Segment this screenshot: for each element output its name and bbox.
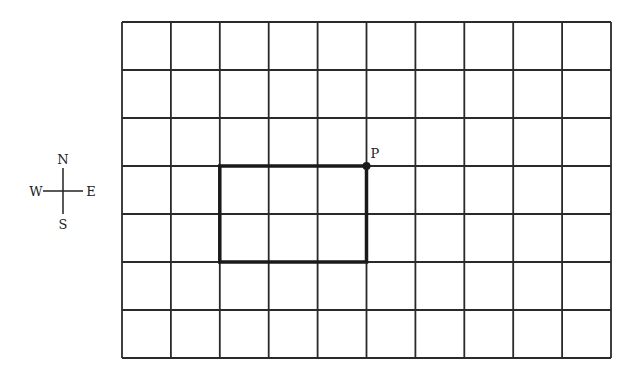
compass-south-label: S bbox=[59, 217, 68, 232]
compass-west-label: W bbox=[29, 184, 43, 199]
compass-north-label: N bbox=[57, 152, 68, 167]
point-p-marker bbox=[363, 162, 371, 170]
point-p-label: P bbox=[371, 146, 380, 161]
compass-rose: N S E W bbox=[29, 152, 95, 232]
compass-east-label: E bbox=[86, 184, 96, 199]
grid-diagram: P N S E W bbox=[0, 0, 633, 378]
